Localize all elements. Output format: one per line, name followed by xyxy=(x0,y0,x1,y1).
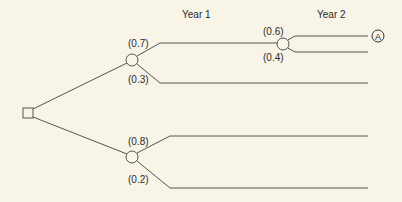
endpoint-a-label: A xyxy=(375,32,381,42)
prob-label-0.3: (0.3) xyxy=(128,74,149,85)
decision-tree-diagram: Year 1 Year 2 (0.7) (0.3) (0.8) (0.2) (0… xyxy=(0,0,402,202)
header-year-1: Year 1 xyxy=(182,9,211,20)
prob-label-0.4: (0.4) xyxy=(263,52,284,63)
prob-label-0.6: (0.6) xyxy=(263,26,284,37)
branch-0.3 xyxy=(137,64,368,83)
chance-node-upper xyxy=(126,54,138,66)
branch-0.6 xyxy=(288,36,368,40)
prob-label-0.7: (0.7) xyxy=(128,38,149,49)
header-year-2: Year 2 xyxy=(317,9,346,20)
prob-label-0.2: (0.2) xyxy=(128,174,149,185)
prob-label-0.8: (0.8) xyxy=(128,136,149,147)
branch-to-upper-chance xyxy=(33,63,127,109)
branch-0.8 xyxy=(137,136,368,153)
branch-0.2 xyxy=(137,161,368,188)
chance-node-lower xyxy=(126,151,138,163)
branch-to-lower-chance xyxy=(33,117,127,154)
branch-0.7 xyxy=(137,43,277,56)
chance-node-year2 xyxy=(277,38,289,50)
decision-node-square xyxy=(23,108,33,118)
branch-0.4 xyxy=(288,48,368,52)
